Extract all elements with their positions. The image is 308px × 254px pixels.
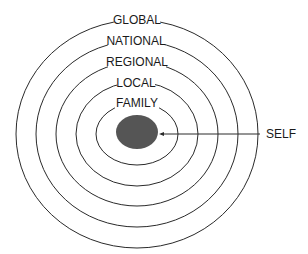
concentric-diagram: GLOBAL NATIONAL REGIONAL LOCAL FAMILY SE…: [0, 0, 308, 254]
arrowhead-icon: [159, 132, 164, 136]
label-national: NATIONAL: [106, 34, 165, 48]
label-regional: REGIONAL: [106, 55, 168, 69]
label-global: GLOBAL: [113, 13, 161, 27]
label-local: LOCAL: [116, 76, 156, 90]
self-core: [116, 115, 158, 149]
label-family: FAMILY: [116, 96, 158, 110]
label-self: SELF: [266, 127, 296, 141]
